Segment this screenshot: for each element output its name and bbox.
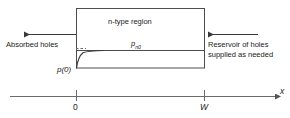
reservoir-label-line2: supplied as needed [208,50,273,60]
x-axis-width-label: W [200,103,208,113]
x-axis-origin-label: 0 [73,103,78,113]
equilibrium-concentration-label: pn0 [131,40,141,50]
x-axis-label: x [280,87,284,97]
semiconductor-hole-diffusion-figure: n-type region Absorbed holes Reservoir o… [0,0,290,118]
surface-concentration-label: p(0) [57,65,71,74]
reservoir-supply-label: Reservoir of holes supplied as needed [208,40,273,60]
absorbed-holes-label: Absorbed holes [6,41,58,50]
n-type-region-label: n-type region [108,18,152,27]
reservoir-label-line1: Reservoir of holes [208,40,273,50]
hole-concentration-curve [77,51,105,69]
equilibrium-subscript: n0 [135,44,141,50]
